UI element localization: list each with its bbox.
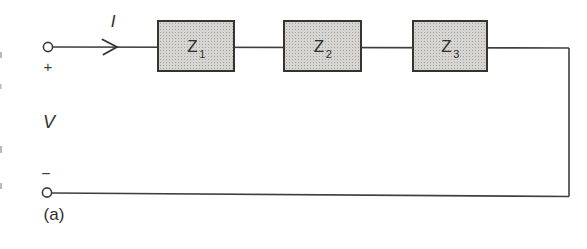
figure-caption: (a) xyxy=(44,206,65,223)
terminal-negative-icon xyxy=(42,188,51,197)
current-label: I xyxy=(111,13,116,30)
terminal-positive-icon xyxy=(43,42,52,51)
impedance-label-z3: Z3 xyxy=(441,38,459,55)
minus-polarity-label: − xyxy=(41,166,50,182)
voltage-label: V xyxy=(43,113,55,131)
impedance-box-z1: Z1 xyxy=(157,20,235,72)
circuit-figure: Z1 Z2 Z3 I + V − (a) xyxy=(0,0,587,249)
plus-polarity-label: + xyxy=(44,59,53,74)
scan-artifacts xyxy=(0,52,2,189)
wire-bottom xyxy=(52,193,569,197)
impedance-box-z3: Z3 xyxy=(412,20,488,72)
impedance-box-z2: Z2 xyxy=(283,20,362,72)
impedance-label-z1: Z1 xyxy=(187,38,205,55)
impedance-label-z2: Z2 xyxy=(314,38,332,55)
